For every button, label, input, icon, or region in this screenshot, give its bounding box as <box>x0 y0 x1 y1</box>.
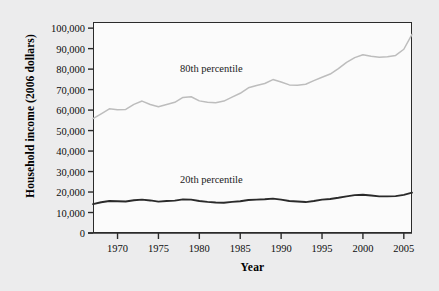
chart-figure: 010,00020,00030,00040,00050,00060,00070,… <box>0 0 439 291</box>
x-tick-label: 2000 <box>352 243 373 254</box>
x-tick-label: 1980 <box>189 243 210 254</box>
x-tick-label: 1995 <box>312 243 333 254</box>
y-axis-title: Household income (2006 dollars) <box>24 6 36 226</box>
x-axis-tick-labels: 19701975198019851990199520002005 <box>0 0 439 291</box>
series-label-20th-percentile: 20th percentile <box>180 174 243 185</box>
x-axis-title: Year <box>93 261 412 273</box>
x-tick-label: 2005 <box>393 243 414 254</box>
x-tick-label: 1975 <box>148 243 169 254</box>
series-label-80th-percentile: 80th percentile <box>180 63 243 74</box>
x-tick-label: 1970 <box>107 243 128 254</box>
x-tick-label: 1990 <box>271 243 292 254</box>
x-tick-label: 1985 <box>230 243 251 254</box>
